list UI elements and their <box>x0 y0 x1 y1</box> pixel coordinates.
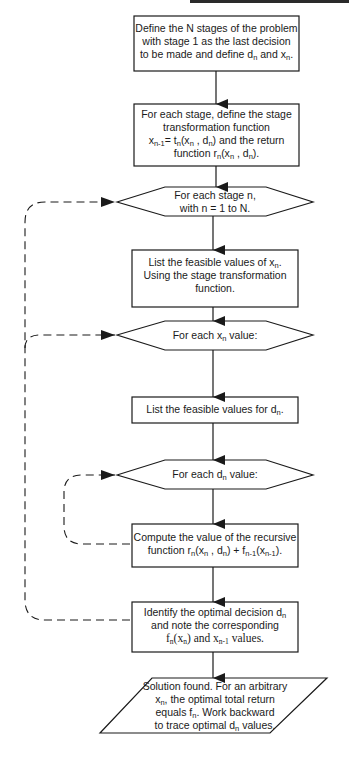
text-line: Solution found. For an arbitrary <box>135 680 295 693</box>
dashed-arrow-compute-to-loop-d <box>64 475 130 544</box>
text-line: Compute the value of the recursive <box>132 531 298 544</box>
text-line: For each xn value: <box>160 329 270 342</box>
text-line: with n = 1 to N. <box>160 202 270 215</box>
node-loop-x-text: For each xn value: <box>160 329 270 342</box>
node-identify-text: Identify the optimal decision dn and not… <box>132 606 298 645</box>
text-line: xn, the optimal total return <box>135 693 295 706</box>
text-line: to trace optimal dn values. <box>135 719 295 732</box>
text-line: List the feasible values for dn. <box>132 403 298 416</box>
text-line: Identify the optimal decision dn <box>132 606 298 619</box>
node-loop-d-text: For each dn value: <box>160 468 270 481</box>
node-list-x-text: List the feasible values of xn. Using th… <box>132 256 298 295</box>
text-line: fn(xn) and xn-1 values. <box>132 632 298 645</box>
dashed-arrow-to-loop-x <box>25 335 115 348</box>
text-line: Define the N stages of the problem <box>134 22 299 35</box>
node-loop-stage-text: For each stage n, with n = 1 to N. <box>160 189 270 215</box>
text-line: to be made and define dn and xn. <box>134 48 299 61</box>
text-line: List the feasible values of xn. <box>132 256 298 269</box>
text-line: transformation function <box>134 121 299 134</box>
node-list-d-text: List the feasible values for dn. <box>132 403 298 416</box>
text-line: Using the stage transformation <box>132 269 298 282</box>
text-line: For each stage, define the stage <box>134 108 299 121</box>
text-line: with stage 1 as the last decision <box>134 35 299 48</box>
node-define-functions-text: For each stage, define the stage transfo… <box>134 108 299 160</box>
text-line: For each stage n, <box>160 189 270 202</box>
text-line: For each dn value: <box>160 468 270 481</box>
text-line: function. <box>132 282 298 295</box>
text-line: function rn(xn , dn). <box>134 147 299 160</box>
text-line: function rn(xn , dn) + fn-1(xn-1). <box>132 544 298 557</box>
node-define-stages-text: Define the N stages of the problem with … <box>134 22 299 61</box>
node-solution-text: Solution found. For an arbitrary xn, the… <box>135 680 295 732</box>
text-line: xn-1= tn(xn , dn) and the return <box>134 134 299 147</box>
node-compute-text: Compute the value of the recursive funct… <box>132 531 298 557</box>
text-line: and note the corresponding <box>132 619 298 632</box>
text-line: equals fn. Work backward <box>135 706 295 719</box>
dashed-arrow-identify-to-loop-stage <box>25 202 130 620</box>
